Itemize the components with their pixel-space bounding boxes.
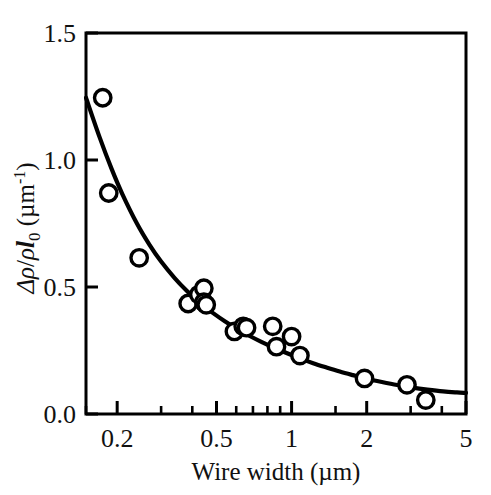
y-axis-title-rho1: ρ [12,267,39,280]
data-point [418,392,434,408]
y-axis-title-ell: l [12,241,39,248]
y-axis-title-unit-close: ) [12,162,40,170]
scatter-plot: 0.20.5125 0.00.51.01.5 Wire width (µm) Δ… [0,0,491,495]
data-point [283,328,299,344]
data-point-group [95,90,434,409]
y-tick-label: 1.0 [44,146,77,175]
y-axis-title-slash: / [12,260,39,267]
plot-frame [86,33,466,414]
data-point [198,297,214,313]
data-point [238,319,254,335]
x-tick-label: 2 [360,424,373,453]
data-point [131,250,147,266]
y-axis-title-unit-open: (µm [12,184,40,233]
x-axis-tick-labels: 0.20.5125 [101,424,473,453]
data-point [95,90,111,106]
x-tick-label: 0.5 [200,424,233,453]
y-tick-label: 0.0 [44,400,77,429]
x-tick-label: 1 [285,424,298,453]
y-axis-tick-labels: 0.00.51.01.5 [44,19,77,429]
y-axis-title-ell-subscript: 0 [25,233,44,242]
data-point [292,347,308,363]
x-axis-title: Wire width (µm) [192,458,361,486]
figure-container: 0.20.5125 0.00.51.01.5 Wire width (µm) Δ… [0,0,491,495]
x-axis-major-ticks [117,401,466,414]
data-point [399,377,415,393]
y-axis-title: Δρ/ρl0 (µm-1) [11,162,44,294]
y-tick-label: 1.5 [44,19,77,48]
y-tick-label: 0.5 [44,273,77,302]
y-axis-title-rho2: ρ [12,248,39,261]
y-axis-title-unit-exponent: -1 [11,171,28,184]
y-axis-title-delta: Δ [12,279,39,295]
axes-frame [86,33,466,414]
data-point [356,370,372,386]
data-point [268,338,284,354]
svg-text:Δρ/ρl0 (µm-1): Δρ/ρl0 (µm-1) [11,162,44,294]
y-axis-major-ticks [86,33,98,414]
x-tick-label: 0.2 [101,424,134,453]
data-point [101,185,117,201]
data-point [264,318,280,334]
x-tick-label: 5 [460,424,473,453]
